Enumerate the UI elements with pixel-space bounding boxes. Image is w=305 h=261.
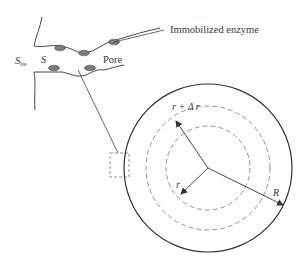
label-r-plus-dr: r + Δ r xyxy=(172,101,200,112)
label-s: S xyxy=(41,54,47,65)
label-r: r xyxy=(176,179,180,190)
label-immobilized-enzyme: Immobilized enzyme xyxy=(170,24,259,35)
diagram-canvas: Immobilized enzyme Pore Sbs S r + Δ r r … xyxy=(0,0,305,261)
enzyme-icon xyxy=(55,45,66,51)
radius-R-arrow xyxy=(208,168,283,205)
label-s-bs: Sbs xyxy=(15,55,27,68)
label-R: R xyxy=(272,187,279,198)
radius-r-plus-dr-arrow xyxy=(176,121,208,168)
enzyme-icon xyxy=(85,65,96,71)
zoom-region-box xyxy=(110,153,129,177)
zoom-leader-line xyxy=(78,70,118,153)
pore-upper-wall xyxy=(34,17,160,53)
enzyme-leader-line xyxy=(114,30,164,42)
enzyme-icon xyxy=(79,50,90,56)
label-pore: Pore xyxy=(103,54,123,65)
radius-r-arrow xyxy=(181,168,208,194)
enzyme-icon xyxy=(49,65,60,71)
